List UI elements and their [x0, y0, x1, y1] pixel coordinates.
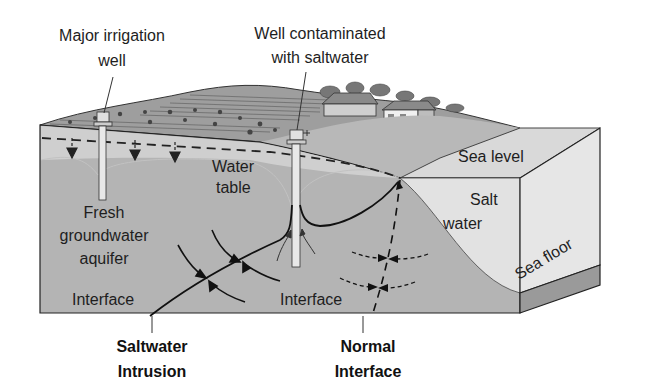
saltwater-intrusion-diagram: Major irrigation well Well contaminated … [0, 0, 663, 389]
label-aquifer-1: Fresh [84, 204, 125, 221]
label-saltwater-intrusion: Saltwater [116, 338, 187, 355]
house-left [322, 93, 378, 116]
label-aquifer-3: aquifer [80, 250, 130, 267]
label-contaminated-well-2: with saltwater [271, 49, 370, 66]
label-saltwater-intrusion-2: Intrusion [118, 363, 186, 380]
label-normal-interface-2: Interface [335, 363, 402, 380]
label-water-table: Water [212, 158, 255, 175]
label-contaminated-well: Well contaminated [254, 25, 385, 42]
label-normal-interface: Normal [340, 338, 395, 355]
label-salt-water: Salt [470, 191, 498, 208]
label-aquifer-2: groundwater [60, 227, 150, 244]
label-interface-left: Interface [72, 291, 134, 308]
label-sea-level: Sea level [458, 148, 524, 165]
label-irrigation-well-2: well [97, 52, 126, 69]
label-salt-water-2: water [442, 215, 483, 232]
label-irrigation-well: Major irrigation [59, 27, 165, 44]
label-interface-right: Interface [280, 291, 342, 308]
label-water-table-2: table [216, 179, 251, 196]
